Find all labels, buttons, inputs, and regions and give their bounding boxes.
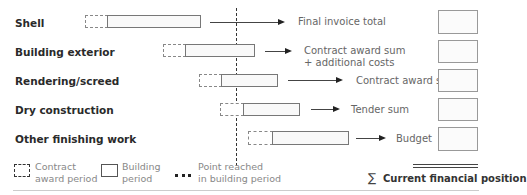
- financial-box-shell: [438, 10, 478, 34]
- building-bar-other-finishing-work: [272, 131, 349, 145]
- arrow-head-icon: [336, 77, 343, 83]
- building-bar-building-exterior: [185, 44, 255, 57]
- arrow-line-dry-construction: [311, 109, 335, 110]
- arrow-head-icon: [379, 135, 386, 141]
- arrow-head-icon: [278, 19, 285, 25]
- arrow-line-other-finishing-work: [356, 138, 381, 139]
- current-financial-position-label: Current financial position: [383, 173, 527, 184]
- financial-box-dry-construction: [438, 98, 478, 121]
- legend-point-line2: in building period: [198, 173, 281, 184]
- arrow-head-icon: [285, 48, 292, 54]
- arrow-line-rendering-screed: [288, 80, 338, 81]
- arrow-head-icon: [333, 106, 340, 112]
- outcome-dry-construction: Tender sum: [351, 104, 409, 115]
- point-reached-line: [236, 8, 237, 166]
- legend-building-line1: Building: [122, 161, 161, 172]
- building-bar-rendering-screed: [221, 74, 278, 87]
- solid-box-icon: [101, 164, 118, 177]
- outcome-other-finishing-work: Budget: [396, 133, 432, 144]
- financial-box-other-finishing-work: [438, 127, 478, 151]
- arrow-line-shell: [210, 22, 280, 23]
- contract-award-bar-other-finishing-work: [248, 131, 273, 145]
- row-label-rendering-screed: Rendering/screed: [15, 75, 119, 87]
- double-rule: [413, 164, 478, 168]
- legend-contract-award-line2: award period: [35, 173, 97, 184]
- outcome-building-exterior-line1: Contract award sum: [304, 45, 405, 56]
- outcome-shell: Final invoice total: [298, 16, 386, 27]
- legend-contract-award-line1: Contract: [35, 161, 76, 172]
- arrow-line-building-exterior: [265, 51, 287, 52]
- contract-award-bar-building-exterior: [163, 44, 186, 57]
- financial-box-building-exterior: [438, 40, 478, 63]
- financial-box-rendering-screed: [438, 69, 478, 92]
- contract-award-bar-dry-construction: [220, 103, 244, 116]
- row-label-shell: Shell: [15, 17, 44, 29]
- outcome-building-exterior-line2: + additional costs: [304, 57, 394, 68]
- dotted-line-icon: [175, 174, 191, 177]
- contract-award-bar-rendering-screed: [199, 74, 222, 87]
- dashed-box-icon: [14, 164, 30, 177]
- legend-point-line1: Point reached: [198, 161, 263, 172]
- row-label-building-exterior: Building exterior: [15, 46, 115, 58]
- row-label-dry-construction: Dry construction: [15, 104, 114, 116]
- legend-building-line2: period: [122, 173, 152, 184]
- building-bar-shell: [107, 15, 201, 28]
- bottom-divider: [13, 190, 479, 191]
- sigma-icon: ∑: [368, 171, 376, 185]
- row-label-other-finishing-work: Other finishing work: [15, 133, 136, 145]
- building-bar-dry-construction: [243, 103, 300, 116]
- contract-award-bar-shell: [85, 15, 108, 28]
